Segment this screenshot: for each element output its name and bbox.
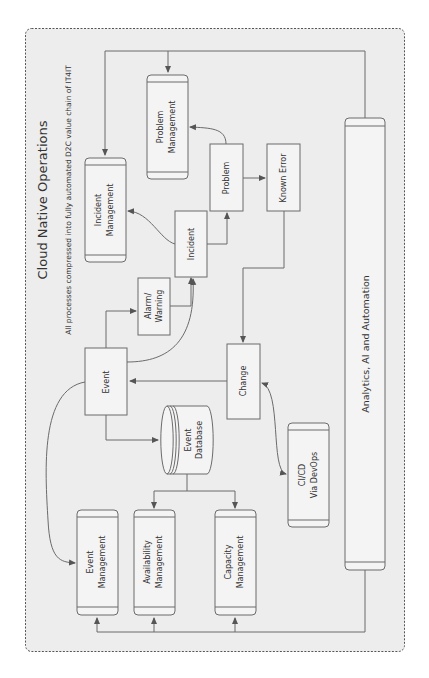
svg-text:Management: Management: [106, 184, 115, 237]
node-event[interactable]: Event: [85, 348, 127, 415]
svg-text:Management: Management: [168, 101, 177, 154]
diagram-subtitle: All processes compressed into fully auto…: [64, 65, 73, 335]
svg-text:Incident: Incident: [187, 228, 196, 260]
svg-text:Event: Event: [184, 429, 193, 452]
svg-text:Management: Management: [155, 536, 164, 589]
node-known-error[interactable]: Known Error: [267, 144, 300, 211]
svg-text:Capacity: Capacity: [224, 544, 233, 579]
node-event-database[interactable]: Event Database: [161, 406, 213, 474]
svg-text:Database: Database: [195, 421, 204, 459]
node-incident-management[interactable]: Incident Management: [85, 158, 126, 262]
svg-text:Problem: Problem: [222, 161, 231, 194]
node-event-management[interactable]: Event Management: [77, 510, 118, 615]
svg-text:Warning: Warning: [155, 290, 164, 323]
node-problem-management[interactable]: Problem Management: [147, 75, 188, 179]
diagram-title: Cloud Native Operations: [35, 120, 50, 279]
node-cicd[interactable]: CI/CD Via DevOps: [288, 423, 329, 527]
svg-text:Availability: Availability: [143, 540, 152, 584]
node-change[interactable]: Change: [227, 344, 260, 419]
svg-text:CI/CD: CI/CD: [298, 464, 307, 486]
svg-text:Incident: Incident: [94, 194, 103, 226]
node-availability-management[interactable]: Availability Management: [134, 510, 175, 615]
node-capacity-management[interactable]: Capacity Management: [215, 510, 256, 615]
svg-text:Event: Event: [102, 371, 111, 394]
svg-text:Management: Management: [98, 536, 107, 589]
svg-text:Change: Change: [239, 366, 248, 397]
svg-text:Alarm/: Alarm/: [144, 293, 153, 320]
diagram-canvas: Cloud Native Operations All processes co…: [0, 0, 429, 678]
svg-text:Event: Event: [86, 551, 95, 574]
node-analytics-ai-automation[interactable]: Analytics, AI and Automation: [345, 118, 385, 570]
svg-text:Problem: Problem: [156, 110, 165, 143]
node-problem[interactable]: Problem: [210, 144, 243, 211]
svg-text:Via DevOps: Via DevOps: [310, 452, 319, 498]
svg-text:Management: Management: [236, 536, 245, 589]
node-incident[interactable]: Incident: [175, 211, 207, 277]
node-alarm-warning[interactable]: Alarm/ Warning: [138, 278, 170, 335]
svg-text:Known Error: Known Error: [279, 153, 288, 203]
svg-text:Analytics, AI and Automation: Analytics, AI and Automation: [360, 275, 371, 413]
